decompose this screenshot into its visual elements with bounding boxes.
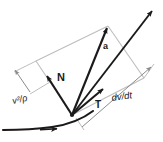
label-tangential-magnitude: dv/dt: [111, 89, 133, 103]
label-acceleration-vector: a: [103, 41, 109, 51]
ext-line-normal-bottom: [30, 82, 50, 94]
parallelogram-edge-right: [108, 26, 144, 78]
ext-line-tangential-right: [144, 64, 154, 78]
particle-point: [70, 113, 74, 117]
parallelogram-edge-bottom: [72, 78, 144, 115]
normal-magnitude-dimension: [15, 70, 30, 92]
label-normal-vector: N: [57, 71, 65, 83]
trajectory-curve: [3, 111, 93, 130]
label-normal-magnitude: v²/ρ: [11, 93, 28, 106]
trajectory-direction-arrow: [40, 129, 57, 130]
label-tangent-vector: T: [95, 99, 101, 110]
figure-canvas: N a T v²/ρ dv/dt: [0, 0, 163, 142]
parallelogram-edge-top: [36, 26, 108, 61]
acceleration-components-figure: N a T v²/ρ dv/dt: [0, 0, 163, 142]
dimension-extension-lines: [14, 61, 154, 130]
ext-line-normal-top: [14, 61, 36, 72]
normal-magnitude-dimension-line: [15, 70, 30, 92]
trajectory-path: [3, 111, 93, 130]
